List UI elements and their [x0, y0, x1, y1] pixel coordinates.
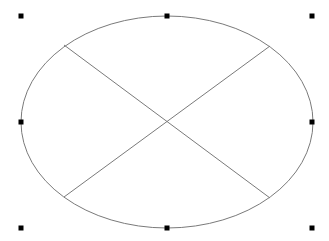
handle-bottom-center[interactable]	[165, 226, 170, 231]
handle-bottom-right[interactable]	[310, 226, 315, 231]
handle-top-left[interactable]	[19, 14, 24, 19]
cross-line-2	[64, 46, 270, 197]
handle-top-right[interactable]	[310, 14, 315, 19]
handle-middle-right[interactable]	[310, 120, 315, 125]
handle-middle-left[interactable]	[19, 120, 24, 125]
drawing-canvas[interactable]	[0, 0, 329, 241]
handle-top-center[interactable]	[165, 14, 170, 19]
handle-bottom-left[interactable]	[19, 226, 24, 231]
